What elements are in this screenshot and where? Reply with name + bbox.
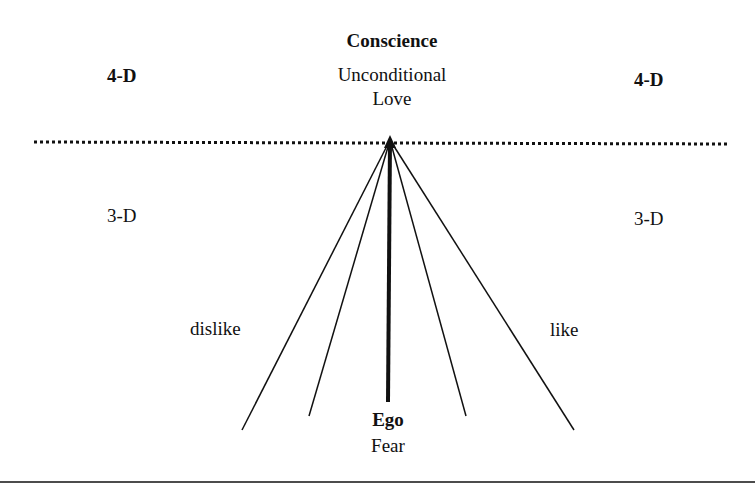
- fan-line-far-left: [242, 140, 390, 430]
- like-label: like: [550, 319, 579, 341]
- right-3d-label: 3-D: [634, 208, 664, 230]
- conscience-label: Conscience: [347, 30, 438, 52]
- fan-line-far-right: [390, 140, 574, 430]
- fan-line-inner-right: [390, 140, 466, 416]
- right-4d-label: 4-D: [634, 69, 664, 91]
- ego-label: Ego: [372, 409, 404, 431]
- left-3d-label: 3-D: [107, 205, 137, 227]
- dimension-boundary-dotted-line: [34, 142, 730, 144]
- left-4d-label: 4-D: [107, 65, 137, 87]
- unconditional-label: Unconditional: [338, 64, 447, 86]
- apex-arrowhead: [384, 135, 396, 148]
- fear-label: Fear: [371, 435, 405, 457]
- fan-line-inner-left: [309, 140, 390, 416]
- love-label: Love: [372, 88, 411, 110]
- dislike-label: dislike: [190, 318, 241, 340]
- fan-line-center: [388, 140, 390, 402]
